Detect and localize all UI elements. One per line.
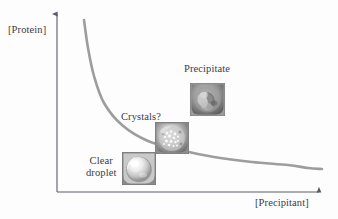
y-axis-label: [Protein] bbox=[8, 24, 46, 35]
region-label-clear-droplet: Clear droplet bbox=[86, 155, 116, 179]
region-label-crystals: Crystals? bbox=[121, 111, 161, 123]
precipitate-drop-photo bbox=[190, 83, 225, 116]
region-label-precipitate: Precipitate bbox=[184, 63, 230, 75]
crystals-drop-photo bbox=[155, 122, 189, 154]
x-axis-label: [Precipitant] bbox=[255, 197, 309, 208]
phase-diagram-figure: [Protein] [Precipitant] Precipitate Crys… bbox=[0, 0, 338, 219]
plot-canvas bbox=[0, 0, 338, 219]
clear-droplet-label-line2: droplet bbox=[86, 167, 116, 178]
clear-droplet-label-line1: Clear bbox=[90, 155, 113, 166]
clear-droplet-photo bbox=[122, 152, 156, 185]
